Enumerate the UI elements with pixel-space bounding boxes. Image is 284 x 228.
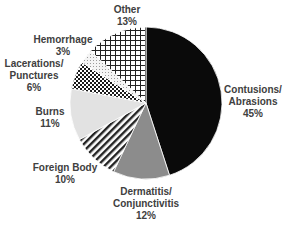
label-burns: Burns 11%	[30, 106, 70, 130]
label-hemorrhage-name: Hemorrhage	[30, 34, 96, 46]
label-hemorrhage: Hemorrhage 3%	[30, 34, 96, 58]
label-dermatitis: Dermatitis/ Conjunctivitis 12%	[108, 186, 184, 222]
label-burns-pct: 11%	[30, 118, 70, 130]
label-contusions-pct: 45%	[222, 108, 284, 120]
label-dermatitis-pct: 12%	[108, 210, 184, 222]
label-other: Other 13%	[102, 4, 152, 28]
label-foreign-body: Foreign Body 10%	[30, 162, 100, 186]
label-dermatitis-line1: Dermatitis/	[108, 186, 184, 198]
label-foreign-body-name: Foreign Body	[30, 162, 100, 174]
label-foreign-body-pct: 10%	[30, 174, 100, 186]
label-other-name: Other	[102, 4, 152, 16]
label-lacerations-line2: Punctures	[4, 70, 64, 82]
label-lacerations: Lacerations/ Punctures 6%	[4, 58, 64, 94]
label-lacerations-pct: 6%	[4, 82, 64, 94]
label-contusions-line1: Contusions/	[222, 84, 284, 96]
label-other-pct: 13%	[102, 16, 152, 28]
label-burns-name: Burns	[30, 106, 70, 118]
label-contusions-line2: Abrasions	[222, 96, 284, 108]
label-dermatitis-line2: Conjunctivitis	[108, 198, 184, 210]
label-lacerations-line1: Lacerations/	[4, 58, 64, 70]
label-hemorrhage-pct: 3%	[30, 46, 96, 58]
label-contusions: Contusions/ Abrasions 45%	[222, 84, 284, 120]
